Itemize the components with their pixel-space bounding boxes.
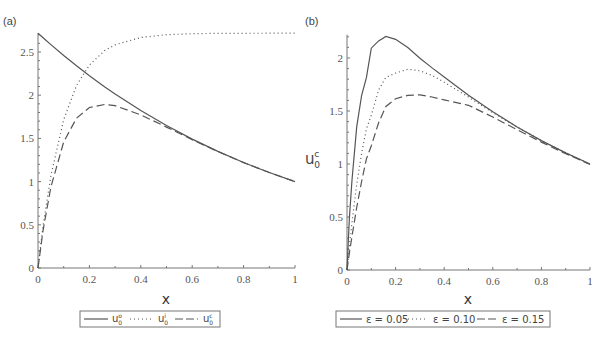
panel-a-axes: 00.20.40.60.8100.511.522.5 <box>20 33 298 285</box>
legend-entry-u0-composite: uc0 <box>203 312 213 326</box>
panel-a-chart: (a) 00.20.40.60.8100.511.522.5 x uo0 ui0… <box>3 15 298 327</box>
superscript: c <box>209 312 212 319</box>
y-tick-label: 0 <box>338 264 344 276</box>
x-tick-label: 0.6 <box>486 275 500 287</box>
y-tick-label: 0.5 <box>20 219 34 231</box>
panel-b-axes: 00.20.40.60.8100.511.52 <box>329 35 593 287</box>
series-dotted-curve <box>38 33 295 268</box>
subscript: 0 <box>209 319 213 326</box>
panel-b-legend: ε = 0.05 ε = 0.10 ε = 0.15 <box>336 311 550 327</box>
legend-eps-010: ε = 0.10 <box>433 314 475 325</box>
subscript: 0 <box>164 319 168 326</box>
legend-entry-u0-outer: uo0 <box>112 312 122 326</box>
x-tick-label: 0.8 <box>237 273 251 285</box>
x-tick-label: 1 <box>587 275 593 287</box>
panel-a-curves <box>38 33 295 268</box>
panel-b-label: (b) <box>305 15 318 27</box>
panel-a-legend: uo0 ui0 uc0 <box>80 311 220 327</box>
x-tick-label: 0.6 <box>185 273 199 285</box>
y-tick-label: 2 <box>29 89 35 101</box>
legend-eps-015: ε = 0.15 <box>502 314 544 325</box>
legend-eps-005: ε = 0.05 <box>366 314 408 325</box>
superscript: o <box>118 312 122 319</box>
panel-a-label: (a) <box>3 15 16 27</box>
panel-b-curves <box>347 37 590 271</box>
panel-b-y-axis-title: uc0 <box>305 149 320 170</box>
x-tick-label: 0.8 <box>535 275 549 287</box>
y-tick-label: 2 <box>338 52 344 64</box>
x-tick-label: 0.4 <box>437 275 451 287</box>
y-tick-label: 1 <box>29 176 35 188</box>
series-solid-curve <box>38 33 295 181</box>
y-tick-label: 1.5 <box>329 105 343 117</box>
x-tick-label: 1 <box>292 273 298 285</box>
panel-b-x-axis-title: x <box>464 291 472 307</box>
superscript: c <box>314 149 319 159</box>
y-tick-label: 0 <box>29 262 35 274</box>
series-solid-curve <box>347 37 590 271</box>
panel-a-x-axis-title: x <box>162 291 170 307</box>
subscript: 0 <box>314 160 320 170</box>
series-dotted-curve <box>347 69 590 270</box>
x-tick-label: 0 <box>344 275 350 287</box>
math-label: u <box>305 150 315 168</box>
subscript: 0 <box>118 319 122 326</box>
x-tick-label: 0 <box>35 273 41 285</box>
panel-b-chart: (b) 00.20.40.60.8100.511.52 uc0 x ε = 0.… <box>305 15 593 327</box>
y-tick-label: 0.5 <box>329 211 343 223</box>
y-tick-label: 2.5 <box>20 46 34 58</box>
figure: (a) 00.20.40.60.8100.511.522.5 x uo0 ui0… <box>0 0 608 342</box>
series-dashed-curve <box>38 104 295 268</box>
y-tick-label: 1.5 <box>20 132 34 144</box>
x-tick-label: 0.2 <box>83 273 97 285</box>
x-tick-label: 0.4 <box>134 273 148 285</box>
series-dashed-curve <box>347 95 590 270</box>
x-tick-label: 0.2 <box>389 275 403 287</box>
y-tick-label: 1 <box>338 158 344 170</box>
